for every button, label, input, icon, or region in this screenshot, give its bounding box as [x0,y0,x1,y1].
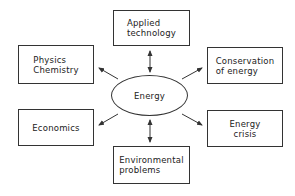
node-conservation-of-energy: Conservation of energy [207,47,283,84]
arrow-energy-physics-chemistry [99,68,118,79]
center-label: Energy [134,91,165,101]
center-node-energy: Energy [111,75,188,116]
arrow-energy-crisis [182,114,202,125]
node-economics: Economics [18,109,94,146]
node-label: Environmental problems [119,155,183,175]
node-label: Energy crisis [230,119,261,139]
node-label: Economics [32,123,79,133]
node-environmental-problems: Environmental problems [113,146,190,184]
node-energy-crisis: Energy crisis [207,110,283,147]
node-physics-chemistry: Physics Chemistry [18,45,94,84]
arrow-energy-economics [99,114,118,125]
node-label: Applied technology [127,18,176,38]
node-label: Conservation of energy [216,56,275,76]
node-label: Physics Chemistry [33,55,78,75]
arrow-energy-conservation [182,68,202,79]
node-applied-technology: Applied technology [113,10,190,46]
energy-concept-diagram: Applied technology Physics Chemistry Con… [0,0,295,196]
